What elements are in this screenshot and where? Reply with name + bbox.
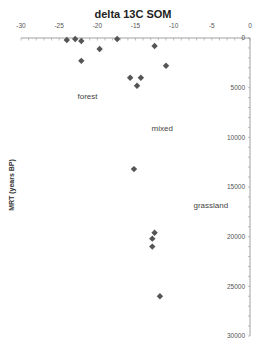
chart-title: delta 13C SOM (94, 8, 171, 20)
y-tick-label: 15000 (227, 183, 245, 190)
y-tick-label: 30000 (227, 332, 245, 339)
data-point (151, 229, 157, 235)
data-point (96, 46, 102, 52)
data-point (157, 293, 163, 299)
x-tick-label: -10 (169, 22, 179, 29)
x-tick-label: -25 (54, 22, 64, 29)
scatter-chart: delta 13C SOM -30-25-20-15-10-50 0500010… (0, 0, 263, 358)
data-point (151, 43, 157, 49)
data-point (134, 82, 140, 88)
x-tick-label: -15 (131, 22, 141, 29)
data-point (127, 75, 133, 81)
y-tick-label: 20000 (227, 233, 245, 240)
data-points (64, 36, 170, 300)
annotations: forestmixedgrassland (77, 92, 228, 210)
data-point (78, 38, 84, 44)
y-tick-label: 5000 (231, 84, 246, 91)
data-point (78, 58, 84, 64)
x-tick-label: -30 (16, 22, 26, 29)
y-axis: 050001000015000200002500030000 (227, 34, 250, 339)
data-point (163, 63, 169, 69)
data-point (114, 36, 120, 42)
annotation-forest: forest (77, 92, 98, 101)
y-tick-label: 0 (241, 34, 245, 41)
data-point (149, 243, 155, 249)
data-point (131, 166, 137, 172)
x-tick-label: 0 (248, 22, 252, 29)
x-tick-label: -5 (209, 22, 215, 29)
annotation-grassland: grassland (194, 201, 229, 210)
annotation-mixed: mixed (152, 124, 173, 133)
y-tick-label: 10000 (227, 134, 245, 141)
y-tick-label: 25000 (227, 283, 245, 290)
y-axis-label: MRT (years BP) (8, 159, 16, 211)
data-point (149, 235, 155, 241)
data-point (72, 36, 78, 42)
x-axis: -30-25-20-15-10-50 (16, 22, 252, 41)
x-tick-label: -20 (93, 22, 103, 29)
data-point (138, 75, 144, 81)
